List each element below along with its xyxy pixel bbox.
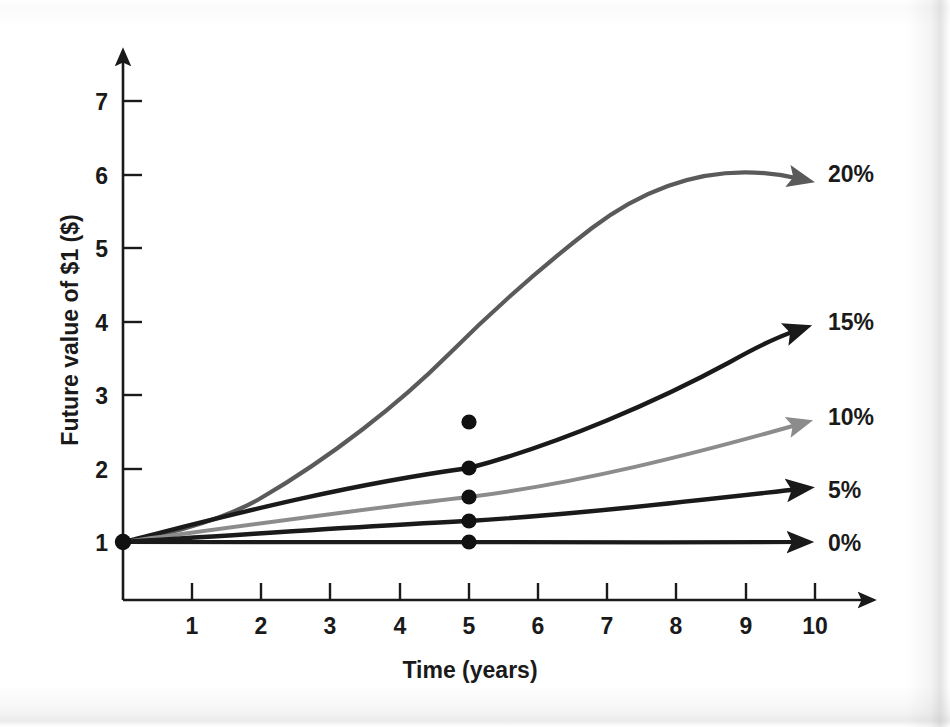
x-axis-tick-labels: 1 2 3 4 5 6 7 8 9 10 bbox=[186, 613, 828, 639]
y-tick-label-7: 7 bbox=[95, 89, 108, 115]
y-tick-label-1: 1 bbox=[95, 530, 108, 556]
x-axis-ticks bbox=[192, 583, 815, 600]
marker-15-year5[interactable] bbox=[461, 460, 476, 475]
x-tick-label-9: 9 bbox=[740, 613, 753, 639]
x-tick-label-6: 6 bbox=[532, 613, 545, 639]
x-tick-label-8: 8 bbox=[670, 613, 683, 639]
series-label-20[interactable]: 20% bbox=[828, 161, 874, 187]
y-tick-label-2: 2 bbox=[95, 457, 108, 483]
marker-20-year5[interactable] bbox=[461, 414, 476, 429]
y-axis-ticks bbox=[123, 101, 142, 469]
x-tick-label-5: 5 bbox=[463, 613, 476, 639]
marker-10-year5[interactable] bbox=[461, 489, 476, 504]
x-tick-label-1: 1 bbox=[186, 613, 199, 639]
x-tick-label-4: 4 bbox=[394, 613, 407, 639]
y-tick-label-5: 5 bbox=[95, 236, 108, 262]
y-tick-label-3: 3 bbox=[95, 383, 108, 409]
y-tick-label-6: 6 bbox=[95, 163, 108, 189]
series-label-0[interactable]: 0% bbox=[828, 530, 861, 556]
series-line-10[interactable] bbox=[123, 424, 800, 542]
series-label-15[interactable]: 15% bbox=[828, 309, 874, 335]
marker-0-year5[interactable] bbox=[461, 534, 476, 549]
marker-5-year5[interactable] bbox=[461, 513, 476, 528]
x-tick-label-7: 7 bbox=[601, 613, 614, 639]
x-tick-label-10: 10 bbox=[802, 613, 828, 639]
series-labels: 20% 15% 10% 5% 0% bbox=[828, 161, 874, 556]
x-axis-title: Time (years) bbox=[402, 657, 537, 683]
figure-canvas: 7 6 5 4 3 2 1 1 2 3 4 5 6 bbox=[0, 0, 950, 727]
y-tick-label-4: 4 bbox=[95, 310, 108, 336]
y-axis-tick-labels: 7 6 5 4 3 2 1 bbox=[95, 89, 108, 556]
series-label-10[interactable]: 10% bbox=[828, 404, 874, 430]
future-value-line-chart: 7 6 5 4 3 2 1 1 2 3 4 5 6 bbox=[0, 0, 950, 727]
series-label-5[interactable]: 5% bbox=[828, 477, 861, 503]
y-axis-title: Future value of $1 ($) bbox=[57, 214, 83, 445]
origin-marker[interactable] bbox=[115, 534, 131, 550]
x-tick-label-2: 2 bbox=[255, 613, 268, 639]
series-lines bbox=[123, 172, 801, 542]
series-line-20[interactable] bbox=[123, 172, 801, 542]
x-tick-label-3: 3 bbox=[324, 613, 337, 639]
series-line-15[interactable] bbox=[123, 330, 798, 542]
